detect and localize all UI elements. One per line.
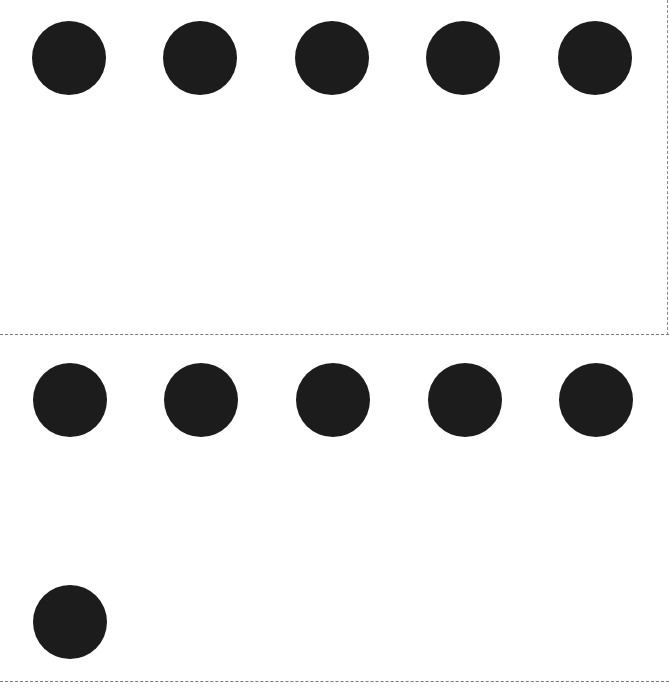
dot-8 [296, 363, 370, 437]
top-section [0, 0, 669, 335]
dot-1 [32, 21, 106, 95]
dot-11 [33, 585, 107, 659]
dot-4 [426, 21, 500, 95]
dot-7 [164, 363, 238, 437]
dot-3 [295, 21, 369, 95]
dot-2 [163, 21, 237, 95]
dot-10 [559, 363, 633, 437]
bottom-section [0, 335, 669, 682]
dot-5 [558, 21, 632, 95]
dot-6 [33, 363, 107, 437]
dot-9 [428, 363, 502, 437]
